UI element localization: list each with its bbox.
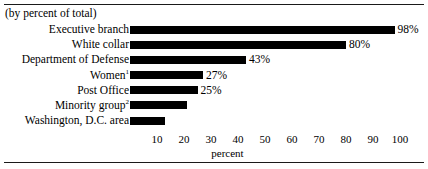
bar-track: 98% bbox=[130, 26, 395, 34]
bar bbox=[130, 86, 198, 94]
x-axis-tick-label: 40 bbox=[233, 133, 244, 146]
bar-track bbox=[130, 117, 165, 125]
chart-bar-row: Executive branch98% bbox=[0, 23, 428, 38]
bar-category-label: Minority group2 bbox=[1, 99, 129, 112]
bar-category-label: Washington, D.C. area bbox=[1, 114, 129, 127]
bar-track bbox=[130, 101, 187, 109]
x-axis-tick-label: 100 bbox=[392, 133, 409, 146]
x-axis-tick-label: 30 bbox=[206, 133, 217, 146]
chart-bar-row: Washington, D.C. area bbox=[0, 114, 428, 129]
bar bbox=[130, 26, 395, 34]
chart-plot-area: Executive branch98%White collar80%Depart… bbox=[0, 23, 428, 135]
bar-chart-figure: (by percent of total) Executive branch98… bbox=[0, 0, 428, 169]
chart-bar-row: Department of Defense43% bbox=[0, 53, 428, 68]
x-axis-tick-label: 20 bbox=[179, 133, 190, 146]
x-axis-tick-label: 50 bbox=[260, 133, 271, 146]
bar-value-label: 43% bbox=[249, 53, 270, 66]
footnote-marker: 2 bbox=[126, 98, 130, 106]
bottom-divider bbox=[4, 162, 424, 163]
x-axis-tick-label: 90 bbox=[368, 133, 379, 146]
chart-bar-row: Minority group2 bbox=[0, 99, 428, 114]
chart-subtitle: (by percent of total) bbox=[5, 6, 97, 20]
chart-bar-row: White collar80% bbox=[0, 38, 428, 53]
bar bbox=[130, 101, 187, 109]
x-axis-tick-label: 60 bbox=[287, 133, 298, 146]
bar-value-label: 98% bbox=[398, 23, 419, 36]
x-axis-tick-label: 80 bbox=[341, 133, 352, 146]
bar-category-label: Executive branch bbox=[1, 23, 129, 36]
bar-value-label: 27% bbox=[206, 69, 227, 82]
bar-track: 80% bbox=[130, 41, 346, 49]
x-axis-title: percent bbox=[0, 147, 428, 160]
chart-bar-row: Post Office25% bbox=[0, 84, 428, 99]
bar bbox=[130, 56, 246, 64]
bar-track: 27% bbox=[130, 71, 203, 79]
bar-track: 43% bbox=[130, 56, 246, 64]
bar bbox=[130, 71, 203, 79]
bar-category-label: Women1 bbox=[1, 69, 129, 82]
x-axis-title-text: percent bbox=[211, 147, 243, 160]
top-divider bbox=[4, 4, 424, 5]
bar-value-label: 25% bbox=[201, 84, 222, 97]
chart-bar-row: Women127% bbox=[0, 69, 428, 84]
bar bbox=[130, 41, 346, 49]
footnote-marker: 1 bbox=[126, 68, 130, 76]
bar-category-label: Department of Defense bbox=[1, 53, 129, 66]
x-axis-tick-label: 70 bbox=[314, 133, 325, 146]
bar-category-label: White collar bbox=[1, 38, 129, 51]
bar bbox=[130, 117, 165, 125]
bar-track: 25% bbox=[130, 86, 198, 94]
bar-value-label: 80% bbox=[349, 38, 370, 51]
bar-category-label: Post Office bbox=[1, 84, 129, 97]
x-axis-tick-label: 10 bbox=[152, 133, 163, 146]
